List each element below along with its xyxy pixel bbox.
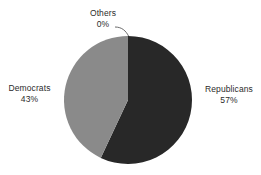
pie-label-democrats-value: 43% [0,94,59,105]
pie-label-republicans: Republicans 57% [198,84,260,105]
pie-label-republicans-value: 57% [198,95,260,106]
pie-label-others-value: 0% [74,19,132,30]
pie-label-others-name: Others [74,8,132,19]
pie-label-democrats: Democrats 43% [0,83,59,104]
pie-chart: Others 0% Democrats 43% Republicans 57% [0,0,261,175]
pie-label-democrats-name: Democrats [0,83,59,94]
pie-label-others: Others 0% [74,8,132,29]
pie-label-republicans-name: Republicans [198,84,260,95]
